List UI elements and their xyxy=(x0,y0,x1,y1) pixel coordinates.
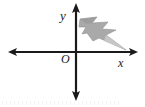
figure-canvas: y x O xyxy=(0,0,145,107)
origin-label: O xyxy=(61,53,70,65)
lightning-bolt-tip-highlight xyxy=(104,35,126,50)
lightning-bolt-shape xyxy=(79,17,126,50)
y-axis-label: y xyxy=(60,9,66,22)
coordinate-plane-svg xyxy=(0,0,145,107)
x-axis-label: x xyxy=(118,57,123,69)
scan-artifact-band xyxy=(2,101,122,105)
